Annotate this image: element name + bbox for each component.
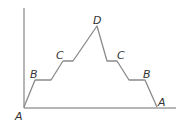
label-peak-d: D: [93, 14, 101, 27]
label-right-a: A: [157, 96, 166, 109]
profile-line: [24, 26, 157, 107]
label-left-b: B: [30, 68, 38, 81]
label-right-c: C: [117, 49, 125, 62]
label-right-b: B: [143, 68, 151, 81]
profile-diagram: A B C D C B A: [0, 0, 183, 130]
label-left-c: C: [56, 49, 64, 62]
label-origin-a: A: [14, 110, 23, 123]
